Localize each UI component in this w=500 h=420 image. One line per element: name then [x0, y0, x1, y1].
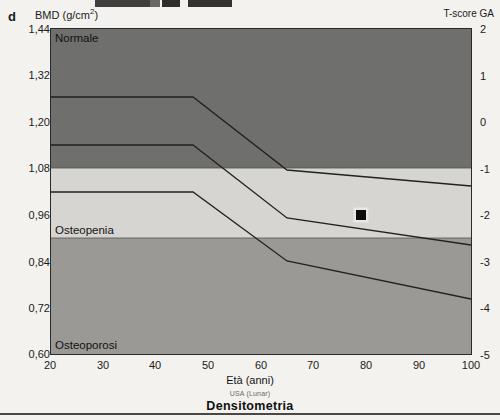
y2-tick-label: -4 [473, 302, 500, 314]
y2-tick-label: -1 [473, 163, 500, 175]
y-tick-label: 1,44 [4, 23, 50, 35]
x-axis-title: Età (anni) [0, 374, 500, 386]
x-tick-label: 80 [346, 359, 386, 371]
y2-tick-label: -3 [473, 256, 500, 268]
y2-tick-label: 2 [473, 23, 500, 35]
x-tick-label: 60 [241, 359, 281, 371]
y-tick-label: 1,20 [4, 116, 50, 128]
x-tick-label: 100 [451, 359, 491, 371]
band-osteopenia [51, 168, 471, 238]
scan-artifact-strip [188, 0, 232, 7]
page-bottom-rule [0, 413, 500, 415]
x-tick-label: 30 [83, 359, 123, 371]
region-label-osteoporosi: Osteoporosi [55, 339, 117, 351]
x-tick-label: 40 [135, 359, 175, 371]
y-tick-label: 1,08 [4, 162, 50, 174]
y2-tick-label: 0 [473, 116, 500, 128]
x-tick-label: 70 [293, 359, 333, 371]
y2-tick-label: 1 [473, 70, 500, 82]
source-note: USA (Lunar) [0, 390, 500, 397]
figure-caption: Densitometria [0, 399, 500, 413]
y2-tick-label: -2 [473, 209, 500, 221]
y2-axis-tick-labels: 2 1 0 -1 -2 -3 -4 -5 [473, 0, 500, 420]
x-tick-label: 50 [188, 359, 228, 371]
patient-measurement-marker[interactable] [354, 208, 369, 223]
chart-svg [51, 29, 471, 354]
y-axis-title-paren: ) [94, 9, 98, 21]
scan-artifact-strip [95, 0, 155, 7]
region-label-normale: Normale [55, 32, 98, 44]
figure-page: d BMD (g/cm2) T-score GA Normale [0, 0, 500, 420]
y-tick-label: 0,96 [4, 209, 50, 221]
chart-plot-area: Normale Osteopenia Osteoporosi [50, 28, 472, 355]
scan-artifact-strip [162, 0, 180, 7]
y-axis-tick-labels: 1,44 1,32 1,20 1,08 0,96 0,84 0,72 0,60 [0, 0, 50, 420]
region-label-osteopenia: Osteopenia [55, 224, 114, 236]
y-tick-label: 0,84 [4, 256, 50, 268]
band-osteoporosi [51, 238, 471, 354]
band-normale [51, 29, 471, 168]
y-tick-label: 0,72 [4, 302, 50, 314]
scan-artifact-strip [150, 0, 160, 7]
x-tick-label: 20 [30, 359, 70, 371]
y-tick-label: 1,32 [4, 69, 50, 81]
x-tick-label: 90 [399, 359, 439, 371]
